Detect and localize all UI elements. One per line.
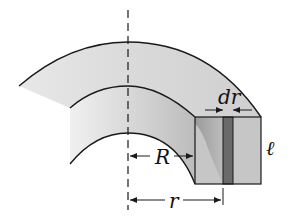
label-length: ℓ: [266, 136, 275, 160]
label-r: r: [169, 189, 180, 213]
diagram-canvas: R r dr ℓ: [0, 0, 294, 217]
label-R: R: [154, 145, 170, 169]
label-dr: dr: [218, 85, 242, 109]
r-dimension: r: [130, 188, 223, 213]
shell-strip-dr: [223, 117, 233, 184]
